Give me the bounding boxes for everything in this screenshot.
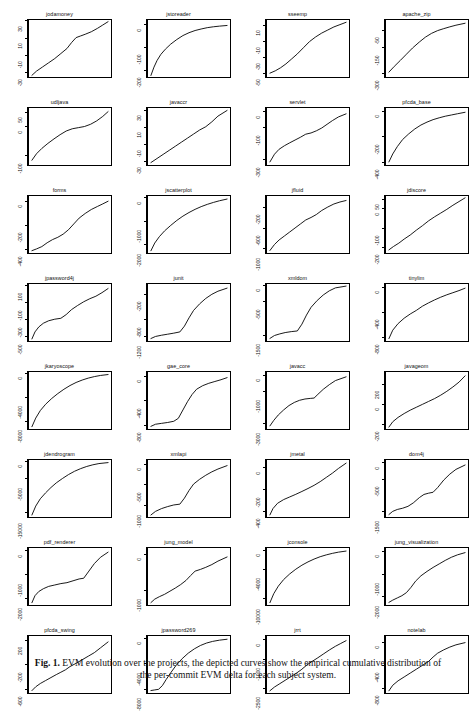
chart-panel: pdf_renderer0-1000-2000: [0, 532, 119, 620]
chart-panel: xmldom0-500-1500: [238, 268, 357, 356]
chart-panel: jfluid-200-600-1000: [238, 180, 357, 268]
y-axis-tick-label: -1000: [258, 400, 263, 413]
plot-area: [385, 371, 469, 430]
plot-area: [147, 107, 231, 166]
panel-title: javageom: [357, 363, 476, 369]
y-axis-tick-label: -10: [20, 62, 25, 69]
ecdf-curve: [29, 460, 111, 517]
panel-title: gae_core: [119, 363, 238, 369]
ecdf-curve: [29, 20, 111, 77]
ecdf-curve: [267, 20, 349, 77]
y-axis-tick-label: -10: [139, 150, 144, 157]
chart-panel: javaccr3010-10-30: [119, 92, 238, 180]
chart-panel: jmetal0-200-400: [238, 444, 357, 532]
y-axis-tick-label: 0: [377, 213, 382, 216]
plot-area: [147, 371, 231, 430]
ecdf-curve: [148, 196, 230, 253]
plot-area: [266, 107, 350, 166]
y-axis-tick-label: -200: [139, 78, 144, 88]
y-axis-tick-label: 0: [139, 29, 144, 32]
y-axis-tick-label: -1000: [377, 583, 382, 596]
plot-area: [266, 195, 350, 254]
panel-title: jung_visualization: [357, 539, 476, 545]
chart-panel: servlet0-100-300: [238, 92, 357, 180]
chart-panel: dom4j0-500-1500: [357, 444, 476, 532]
ecdf-curve: [29, 284, 111, 341]
panel-title: udljava: [0, 99, 119, 105]
panel-title: jpassword269: [119, 627, 238, 633]
y-axis-tick-label: 0: [20, 465, 25, 468]
caption-label: Fig. 1.: [35, 658, 60, 668]
y-axis-tick-label: 50: [377, 205, 382, 211]
y-axis-tick-label: 10: [258, 31, 263, 37]
y-axis-tick-label: -30: [139, 167, 144, 174]
plot-area: [266, 371, 350, 430]
y-axis-tick-label: 200: [377, 391, 382, 399]
y-axis-tick-label: 200: [20, 647, 25, 655]
ecdf-curve: [386, 284, 468, 341]
chart-panel: gae_core0-400-800: [119, 356, 238, 444]
y-axis-tick-label: -200: [20, 233, 25, 243]
y-axis-tick-label: 0: [20, 555, 25, 558]
chart-panel: jung_model0-1000: [119, 532, 238, 620]
ecdf-curve: [267, 108, 349, 165]
y-axis-tick-label: -400: [20, 257, 25, 267]
plot-area: [385, 283, 469, 342]
panel-title: sseemp: [238, 11, 357, 17]
chart-panel: tinylim0-400-800: [357, 268, 476, 356]
figure-caption: Fig. 1. EVM evolution over the projects,…: [0, 657, 476, 681]
chart-panel: udljava500-100: [0, 92, 119, 180]
chart-panel: jdiscore500-100-200: [357, 180, 476, 268]
panel-title: jscatterplot: [119, 187, 238, 193]
panel-title: jung_model: [119, 539, 238, 545]
y-axis-tick-label: 0: [377, 115, 382, 118]
y-axis-tick-label: 0: [20, 131, 25, 134]
y-axis-tick-label: 0: [377, 291, 382, 294]
y-axis-tick-label: -200: [258, 497, 263, 507]
y-axis-tick-label: -2000: [377, 606, 382, 619]
y-axis-tick-label: -1000: [20, 584, 25, 597]
plot-area: [28, 283, 112, 342]
chart-panel: jung_visualization0-1000-2000: [357, 532, 476, 620]
y-axis-tick-label: 0: [258, 472, 263, 475]
y-axis-tick-label: -2000: [20, 608, 25, 621]
y-axis-tick-label: 0: [20, 377, 25, 380]
panel-title: jstoreader: [119, 11, 238, 17]
chart-panel: jstoreader0-100-200: [119, 4, 238, 92]
y-axis-tick-label: -800: [377, 345, 382, 355]
chart-panel: forms0-200-400: [0, 180, 119, 268]
y-axis-tick-label: -500: [377, 487, 382, 497]
y-axis-tick-label: 0: [377, 646, 382, 649]
caption-text: EVM evolution over the projects, the dep…: [62, 658, 441, 680]
y-axis-tick-label: -200: [377, 144, 382, 154]
panel-title: apache_zip: [357, 11, 476, 17]
y-axis-tick-label: -500: [258, 309, 263, 319]
y-axis-tick-label: -30: [20, 79, 25, 86]
y-axis-tick-label: 30: [139, 116, 144, 122]
panel-title: javacc: [238, 363, 357, 369]
chart-panel: javacc0-1000-3000: [238, 356, 357, 444]
ecdf-curve: [29, 108, 111, 165]
chart-panel: xmlapi0-500-1000: [119, 444, 238, 532]
y-axis-tick-label: 0: [139, 468, 144, 471]
ecdf-curve: [267, 196, 349, 253]
panel-title: dom4j: [357, 451, 476, 457]
ecdf-curve: [148, 460, 230, 517]
panel-title: jodamoney: [0, 11, 119, 17]
plot-area: [147, 547, 231, 606]
ecdf-curve: [148, 284, 230, 341]
plot-area: [147, 195, 231, 254]
y-axis-tick-label: 0: [377, 467, 382, 470]
y-axis-tick-label: -2500: [258, 697, 263, 710]
y-axis-tick-label: -200: [139, 302, 144, 312]
y-axis-tick-label: 0: [20, 205, 25, 208]
chart-panel: jconsole0-4000-10000: [238, 532, 357, 620]
y-axis-tick-label: -600: [258, 236, 263, 246]
y-axis-tick-label: 50: [20, 118, 25, 124]
ecdf-curve: [148, 372, 230, 429]
y-axis-tick-label: -600: [20, 697, 25, 707]
y-axis-tick-label: 100: [20, 292, 25, 300]
y-axis-tick-label: -8000: [139, 698, 144, 711]
y-axis-tick-label: -2000: [139, 254, 144, 267]
panel-title: jconsole: [238, 539, 357, 545]
